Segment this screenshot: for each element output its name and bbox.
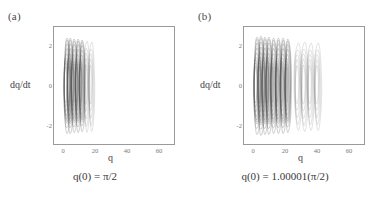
panel-b-caption: q(0) = 1.00001(π/2) [190,170,380,182]
x-tick-label: 40 [119,147,135,154]
panel-a-caption: q(0) = π/2 [0,170,190,182]
y-tick-label: 0 [38,82,52,89]
panel-b-y-axis-label: dq/dt [200,79,221,90]
x-tick-label: 60 [341,147,357,154]
x-tick-label: 40 [309,147,325,154]
y-tick-label: 2 [38,42,52,49]
panel-b-label: (b) [198,10,211,22]
panel-a-y-axis-label: dq/dt [10,79,31,90]
figure-two-panel-phase-portrait: (a) dq/dt 2 0 -2 0 20 40 60 q q(0) = π/2… [0,0,380,200]
y-tick-label: 0 [228,82,242,89]
x-tick-label: 0 [55,147,71,154]
panel-a: (a) dq/dt 2 0 -2 0 20 40 60 q q(0) = π/2 [0,0,190,200]
x-tick-label: 60 [151,147,167,154]
panel-a-plot-area [53,26,175,145]
panel-b-x-axis-label: q [298,152,303,163]
panel-b: (b) dq/dt 2 0 -2 0 20 40 60 q q(0) = 1.0… [190,0,380,200]
y-tick-label: -2 [38,122,52,129]
panel-a-label: (a) [8,10,21,22]
x-tick-label: 0 [245,147,261,154]
y-tick-label: 2 [228,42,242,49]
x-tick-label: 20 [87,147,103,154]
panel-a-x-axis-label: q [108,152,113,163]
panel-b-plot-area [243,26,365,145]
panel-a-trajectory-svg [54,27,174,144]
x-tick-label: 20 [277,147,293,154]
panel-b-trajectory-svg [244,27,364,144]
y-tick-label: -2 [228,122,242,129]
